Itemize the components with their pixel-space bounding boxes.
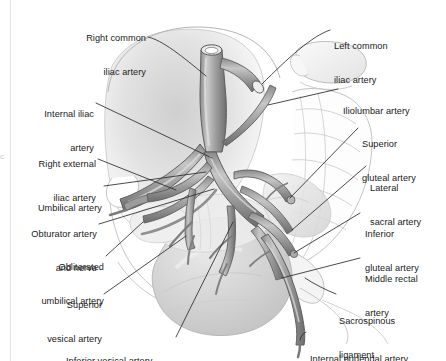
leader-obliterated-umbilical-artery: [106, 222, 143, 256]
label-line-1: Internal iliac: [10, 109, 94, 120]
label-line-1: Superior: [362, 139, 446, 150]
label-line-1: Right external: [6, 159, 96, 170]
label-line-1: Sacrospinous: [339, 316, 435, 327]
label-line-1: Right common: [20, 33, 146, 44]
label-line-1: Middle rectal: [365, 274, 445, 285]
label-line-1: Superior: [10, 300, 102, 311]
label-line-1: Left common: [334, 41, 444, 52]
page-edge-marginalia: c: [0, 152, 4, 161]
label-line-1: Internal pudendal artery: [310, 354, 444, 361]
label-line-1: Inferior: [365, 229, 445, 240]
label-line-2: iliac artery: [20, 67, 146, 78]
label-line-1: Inferior vesical artery: [66, 356, 186, 361]
common-iliac-lumen: [205, 47, 218, 53]
internal-pudendal-distal-tip: [298, 345, 300, 357]
anatomy-figure: Right common iliac artery Internal iliac…: [0, 0, 446, 361]
label-internal-pudendal-artery: Internal pudendal artery: [310, 331, 444, 361]
label-line-1: Lateral: [370, 183, 446, 194]
label-inferior-vesical-artery: Inferior vesical artery: [66, 333, 186, 361]
label-line-1: Obliterated: [4, 262, 104, 273]
